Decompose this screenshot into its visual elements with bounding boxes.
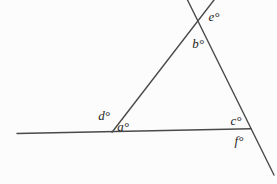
angle-label-b: b° [192,37,204,50]
right-side-line [188,0,275,175]
geometry-figure: d° a° b° e° c° f° [0,0,277,184]
angle-label-c: c° [231,114,242,127]
angle-label-e: e° [209,10,220,23]
angle-label-f: f° [235,134,244,147]
left-side-line [112,0,214,132]
angle-label-a: a° [117,120,129,133]
angle-label-d: d° [98,109,110,122]
base-line [17,129,251,134]
figure-lines [0,0,277,184]
